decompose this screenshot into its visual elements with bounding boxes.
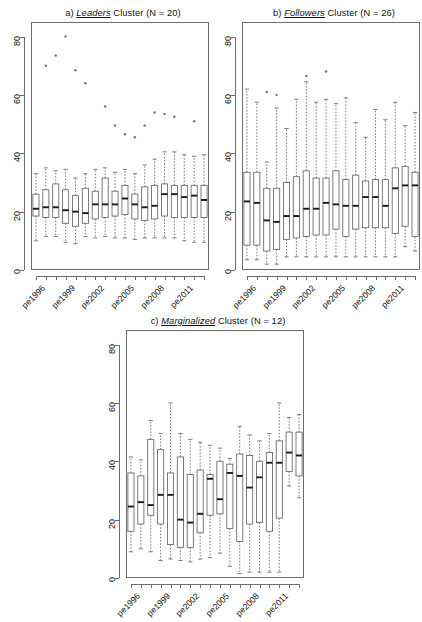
- boxplot-series-c: [126, 330, 304, 578]
- x-tick: [85, 276, 86, 280]
- box-iqr: [33, 194, 39, 216]
- boxplot-c-pe1998: [148, 420, 154, 551]
- boxplot-a-pe1996: [33, 174, 39, 241]
- boxplot-b-pe2004: [323, 70, 329, 257]
- box-iqr: [363, 181, 369, 228]
- x-tick: [36, 276, 37, 280]
- boxplot-a-pe2013: [201, 155, 207, 243]
- x-tick: [356, 276, 357, 280]
- x-tick: [210, 584, 211, 588]
- boxplot-a-pe2012: [191, 120, 197, 242]
- panel-title-b: b) Followers Cluster (N = 26): [234, 8, 422, 18]
- boxplot-b-pe1999: [274, 94, 280, 264]
- box-iqr: [177, 457, 183, 547]
- boxplot-a-pe2005: [122, 133, 128, 238]
- x-tick: [240, 584, 241, 588]
- outlier-point: [104, 105, 107, 108]
- panel-b: b) Followers Cluster (N = 26)020406080pe…: [242, 22, 420, 270]
- x-axis-line-a: [36, 276, 204, 277]
- x-tick: [95, 276, 96, 280]
- outlier-point: [153, 111, 156, 114]
- boxplot-b-pe2003: [313, 102, 319, 257]
- box-iqr: [402, 166, 408, 226]
- x-tick: [395, 276, 396, 280]
- box-iqr: [138, 476, 144, 524]
- x-tick: [326, 276, 327, 280]
- box-iqr: [132, 194, 138, 219]
- box-iqr: [43, 190, 49, 218]
- boxplot-a-pe2010: [171, 116, 177, 238]
- box-iqr: [244, 172, 250, 245]
- box-iqr: [102, 178, 108, 217]
- outlier-point: [143, 124, 146, 127]
- y-tick-label: 40: [223, 152, 233, 174]
- box-iqr: [152, 185, 158, 219]
- x-tick: [171, 584, 172, 588]
- outlier-point: [84, 82, 87, 85]
- x-tick: [46, 276, 47, 280]
- boxplot-b-pe2010: [382, 120, 388, 257]
- box-iqr: [122, 185, 128, 214]
- box-iqr: [191, 185, 197, 217]
- boxplot-b-pe2012: [402, 126, 408, 247]
- y-tick-label: 40: [12, 152, 22, 174]
- x-tick: [145, 276, 146, 280]
- boxplot-c-pe2001: [177, 434, 183, 561]
- x-tick: [66, 276, 67, 280]
- boxplot-c-pe2008: [247, 435, 253, 572]
- outlier-point: [163, 113, 166, 116]
- x-tick: [299, 584, 300, 588]
- panel-c: c) Marginalized Cluster (N = 12)02040608…: [126, 330, 304, 578]
- y-tick-label: 60: [223, 94, 233, 116]
- x-tick: [267, 276, 268, 280]
- box-iqr: [293, 177, 299, 238]
- box-iqr: [372, 180, 378, 228]
- box-iqr: [171, 185, 177, 217]
- outlier-point: [173, 116, 176, 119]
- x-tick: [135, 276, 136, 280]
- panel-title-prefix: c): [151, 316, 159, 326]
- boxplot-a-pe2004: [112, 124, 118, 238]
- boxplot-a-pe2002: [92, 169, 98, 238]
- y-tick-label: 80: [223, 36, 233, 58]
- x-tick: [190, 584, 191, 588]
- outlier-point: [275, 94, 278, 97]
- boxplot-b-pe1998: [264, 91, 270, 264]
- boxplot-a-pe2007: [142, 124, 148, 238]
- panel-title-emphasis: Leaders: [76, 8, 110, 18]
- box-iqr: [181, 185, 187, 217]
- box-iqr: [63, 190, 69, 224]
- panel-title-suffix: Cluster (N = 20): [113, 8, 180, 18]
- box-iqr: [187, 474, 193, 547]
- boxplot-a-pe2000: [72, 69, 78, 244]
- boxplot-c-pe2007: [237, 426, 243, 573]
- box-iqr: [247, 455, 253, 524]
- boxplot-c-pe2004: [207, 445, 213, 557]
- box-iqr: [142, 187, 148, 221]
- y-tick-label: 40: [107, 460, 117, 482]
- y-tick-label: 80: [107, 344, 117, 366]
- panel-title-a: a) Leaders Cluster (N = 20): [23, 8, 223, 18]
- outlier-point: [134, 136, 137, 139]
- boxplot-a-pe2003: [102, 105, 108, 236]
- x-tick: [230, 584, 231, 588]
- box-iqr: [276, 441, 282, 518]
- x-axis-line-b: [247, 276, 415, 277]
- boxplot-c-pe2002: [187, 439, 193, 562]
- box-iqr: [333, 171, 339, 229]
- boxplot-b-pe2008: [363, 137, 369, 257]
- x-tick: [151, 584, 152, 588]
- y-tick-label: 0: [223, 269, 233, 291]
- box-iqr: [217, 461, 223, 514]
- x-tick: [184, 276, 185, 280]
- y-axis-line-a: [24, 37, 25, 270]
- y-tick-label: 20: [107, 519, 117, 541]
- boxplot-a-pe1998: [53, 54, 59, 236]
- x-tick: [279, 584, 280, 588]
- box-iqr: [207, 474, 213, 515]
- x-tick: [277, 276, 278, 280]
- box-iqr: [167, 473, 173, 544]
- x-tick: [405, 276, 406, 280]
- x-tick: [105, 276, 106, 280]
- x-tick: [316, 276, 317, 280]
